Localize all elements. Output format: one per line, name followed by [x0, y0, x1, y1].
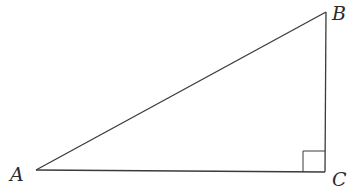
- vertex-label-c: C: [332, 168, 347, 190]
- side-ab: [36, 12, 326, 170]
- triangle-diagram: A B C: [0, 0, 359, 193]
- side-bc: [325, 12, 326, 172]
- right-angle-marker: [303, 151, 325, 172]
- side-ac: [36, 170, 325, 172]
- vertex-label-b: B: [331, 2, 346, 24]
- vertex-label-a: A: [8, 163, 24, 185]
